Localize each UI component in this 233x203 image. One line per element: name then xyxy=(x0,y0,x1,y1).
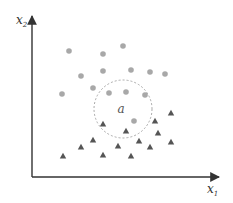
triangle-point xyxy=(90,137,96,143)
triangle-point xyxy=(100,152,106,158)
triangle-point xyxy=(78,144,84,150)
circle-point xyxy=(123,89,129,95)
triangle-point xyxy=(168,139,174,145)
circle-point xyxy=(59,91,65,97)
triangle-point xyxy=(100,121,106,127)
circle-point xyxy=(106,90,112,96)
circle-point xyxy=(66,48,72,54)
triangle-point xyxy=(60,153,66,159)
query-neighborhood: a xyxy=(94,80,152,138)
triangle-point xyxy=(115,143,121,149)
class-triangle-points xyxy=(60,110,174,159)
circle-point xyxy=(90,85,96,91)
triangle-point xyxy=(136,138,142,144)
triangle-point xyxy=(168,110,174,116)
triangle-point xyxy=(123,128,129,134)
x-axis-label: x1 xyxy=(207,182,218,198)
triangle-point xyxy=(128,153,134,159)
triangle-point xyxy=(155,130,161,136)
circle-point xyxy=(147,69,153,75)
knn-diagram: x2 x1 a xyxy=(0,0,233,203)
circle-point xyxy=(100,68,106,74)
circle-point xyxy=(78,73,84,79)
circle-point xyxy=(131,118,137,124)
circle-point xyxy=(128,67,134,73)
query-point-label: a xyxy=(117,102,124,116)
circle-point xyxy=(100,51,106,57)
circle-point xyxy=(162,71,168,77)
class-circle-points xyxy=(59,43,168,124)
triangle-point xyxy=(152,118,158,124)
circle-point xyxy=(120,43,126,49)
y-axis-label: x2 xyxy=(16,13,28,29)
triangle-point xyxy=(147,144,153,150)
